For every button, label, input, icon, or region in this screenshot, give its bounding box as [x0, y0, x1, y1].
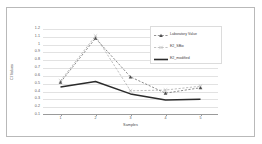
- x-axis-tick-label: 5: [200, 117, 202, 121]
- y-axis-tick-label: 0.1: [35, 113, 40, 117]
- legend-label: E2_modified: [170, 57, 190, 61]
- y-axis-tick-label: 0.7: [35, 66, 40, 70]
- legend-item[interactable]: E2_SBio: [154, 41, 219, 53]
- x-axis-tick-label: 2: [95, 117, 97, 121]
- x-axis-tick-label: 3: [130, 117, 132, 121]
- chart-legend: Laboratory ValueE2_SBioE2_modified: [150, 26, 222, 64]
- x-axis-title: Samples: [43, 124, 218, 128]
- y-axis-tick-label: 0.8: [35, 58, 40, 62]
- x-axis-tick-label: 1: [60, 117, 62, 121]
- legend-swatch-icon: [154, 44, 168, 51]
- legend-swatch-icon: [154, 56, 168, 63]
- y-axis-tick-label: 0.6: [35, 74, 40, 78]
- chart-figure: Cl Values 1.21.110.90.80.70.60.50.40.30.…: [0, 0, 262, 144]
- legend-label: Laboratory Value: [170, 33, 197, 37]
- cross-marker: [129, 89, 132, 92]
- y-axis-title: Cl Values: [11, 64, 15, 80]
- y-axis-tick-label: 1.1: [35, 35, 40, 39]
- y-axis-tick-label: 0.2: [35, 105, 40, 109]
- x-axis-tick-label: 4: [165, 117, 167, 121]
- y-axis-tick-label: 1.2: [35, 27, 40, 31]
- y-axis-tick-label: 0.3: [35, 98, 40, 102]
- y-axis-tick-label: 0.4: [35, 90, 40, 94]
- legend-item[interactable]: Laboratory Value: [154, 29, 219, 41]
- legend-swatch-icon: [154, 32, 168, 39]
- y-axis-tick-label: 0.5: [35, 82, 40, 86]
- y-axis-tick-label: 0.9: [35, 51, 40, 55]
- y-axis-tick-label: 1: [38, 43, 40, 47]
- legend-item[interactable]: E2_modified: [154, 53, 219, 65]
- legend-label: E2_SBio: [170, 45, 184, 49]
